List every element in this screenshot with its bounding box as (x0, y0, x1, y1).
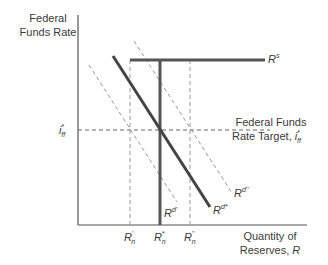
demand-curve-rd-prime-label: Rd' (164, 206, 178, 219)
demand-curve-rd-double-prime-label: Rd'' (234, 186, 249, 199)
y-axis-label-line2: Funds Rate (20, 26, 77, 38)
rn-double-prime-tick-label: R''n (184, 230, 196, 245)
target-rate-tick-label: i*ff (59, 123, 66, 138)
rn-prime-tick-label: R'n (124, 230, 135, 245)
target-annotation-line1: Federal Funds (236, 116, 307, 128)
target-annotation-line2: Rate Target, i*ff (232, 129, 302, 144)
demand-curve-rd-double-prime (134, 41, 232, 193)
x-axis-label-line2: Reserves, R (240, 244, 301, 256)
supply-curve-label: Rs (268, 52, 280, 65)
y-axis-label-line1: Federal (29, 12, 66, 24)
reserves-market-diagram: Federal Funds Rate i*ff Rs Federal Funds… (0, 0, 328, 265)
demand-curve-rd-label: Rd* (213, 203, 228, 216)
x-axis-label-line1: Quantity of (243, 230, 297, 242)
rn-star-tick-label: R*n (154, 230, 166, 245)
